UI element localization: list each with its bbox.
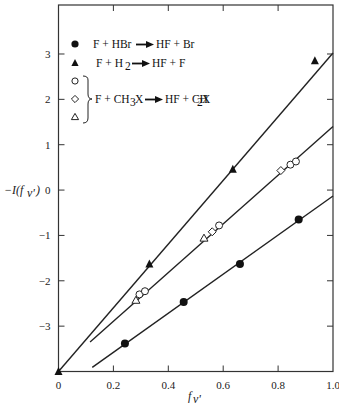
filled-circle-marker [180,298,188,306]
arrow-head-icon [146,41,154,48]
filled-circle-marker [295,216,303,224]
x-axis-label-sub: v' [193,392,201,406]
x-tick-label: 0.2 [107,379,121,391]
subscript: 2 [125,60,131,72]
legend-label-h2-products: HF + F [152,57,185,69]
open-circle-marker [141,288,148,295]
arrow-head-icon [155,96,163,103]
y-tick-label: 3 [45,48,51,60]
y-axis-label-sub: v' [27,186,35,200]
open-circle-marker [216,222,223,229]
legend-label-ch3x: F + CH [95,93,130,105]
legend-label-x: X [135,93,144,105]
filled-triangle-marker [71,59,78,66]
y-tick-label: −3 [39,320,51,332]
open-circle-marker [292,158,299,165]
filled-circle-marker [236,260,244,268]
axis-labels: fv'−I(fv') [4,183,201,406]
open-circle-marker [72,78,78,84]
arrow-head-icon [142,60,150,67]
y-tick-label: 1 [45,139,51,151]
open-triangle-marker [71,113,78,119]
x-tick-label: 0.4 [161,379,175,391]
legend-label-x2: X [202,93,211,105]
y-axis-label-close: ) [35,183,40,197]
y-axis-label: −I(f [4,183,25,197]
brace-icon [83,76,92,123]
y-tick-label: 2 [45,93,51,105]
legend-label-hbr-products: HF + Br [156,38,195,50]
x-tick-label: 1.0 [326,379,339,391]
legend-label-hbr: F + HBr [93,38,132,50]
y-tick-label: 0 [45,184,51,196]
open-diamond-marker [277,167,285,175]
filled-circle-marker [71,40,78,47]
filled-circle-marker [121,339,129,347]
legend: F + HBrHF + BrF + H2HF + FF + CH3XHF + C… [71,38,211,123]
x-tick-label: 0.8 [271,379,285,391]
axis-ticks: 00.20.40.60.81.0−3−2−10123 [39,5,339,391]
filled-triangle-marker [311,56,319,64]
open-diamond-marker [71,95,78,102]
y-tick-label: −1 [39,229,51,241]
open-diamond-marker [208,228,216,236]
y-tick-label: −2 [39,275,51,287]
x-tick-label: 0.6 [216,379,230,391]
legend-label-h2: F + H [96,57,123,69]
chart: 00.20.40.60.81.0−3−2−10123 F + HBrHF + B… [0,0,339,406]
x-tick-label: 0 [56,379,62,391]
